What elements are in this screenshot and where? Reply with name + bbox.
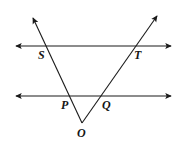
point-label-t: T bbox=[134, 49, 141, 61]
figure-canvas bbox=[0, 0, 181, 147]
point-label-q: Q bbox=[102, 99, 111, 111]
ray-o-through-q-t bbox=[82, 16, 157, 123]
point-label-p: P bbox=[61, 99, 68, 111]
point-label-s: S bbox=[38, 49, 45, 61]
point-label-o: O bbox=[77, 127, 86, 139]
geometry-diagram: S T P Q O bbox=[0, 0, 181, 147]
ray-o-through-p-s bbox=[33, 18, 82, 123]
